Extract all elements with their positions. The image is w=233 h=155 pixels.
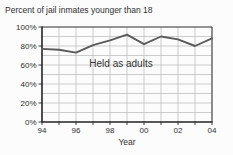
chart-plot-area: 100%80%60%40%20%0%949698000204 [16, 23, 217, 135]
x-tick-label: 96 [72, 126, 81, 135]
x-tick-label: 00 [140, 126, 149, 135]
chart-panel: 100%80%60%40%20%0%949698000204 Percent o… [0, 0, 233, 155]
y-tick-label: 60% [20, 61, 36, 70]
x-tick-label: 04 [208, 126, 217, 135]
x-tick-label: 02 [174, 126, 183, 135]
line-chart: 100%80%60%40%20%0%949698000204 Percent o… [0, 0, 233, 155]
chart-title: Percent of jail inmates younger than 18 [5, 5, 153, 15]
y-tick-label: 100% [16, 23, 36, 32]
series-label-held-as-adults: Held as adults [89, 58, 152, 69]
y-tick-label: 80% [20, 42, 36, 51]
x-axis-title: Year [118, 137, 135, 147]
x-tick-label: 98 [106, 126, 115, 135]
y-tick-label: 40% [20, 80, 36, 89]
x-tick-label: 94 [38, 126, 47, 135]
y-tick-label: 0% [25, 118, 37, 127]
y-tick-label: 20% [20, 99, 36, 108]
